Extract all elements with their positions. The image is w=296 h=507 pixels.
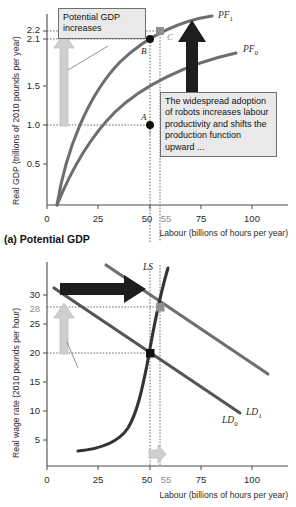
point-b-marker: [146, 35, 154, 43]
panel-b-ytick-20: 20: [29, 347, 40, 358]
panel-a-xtick-0: 0: [44, 213, 49, 224]
arrow-shift-up: [178, 20, 206, 100]
leader-line-real-wage: [67, 342, 78, 368]
panel-a-x-axis-title: Labour (billions of hours per year): [160, 228, 289, 238]
panel-b-xtick-100: 100: [244, 474, 260, 485]
curve-ls: [78, 268, 168, 451]
point-c-marker: [156, 27, 164, 35]
panel-a-x-ticks: [47, 205, 252, 209]
panel-b-ytick-10: 10: [29, 405, 40, 416]
curve-label-ls: LS: [142, 262, 153, 272]
arrow-demand-shift-right: [60, 275, 146, 303]
panel-b-xtick-50: 50: [142, 474, 153, 485]
panel-b-ytick-5: 5: [35, 434, 40, 445]
curve-label-ld1: LD1: [245, 407, 262, 420]
panel-a-caption: (a) Potential GDP: [4, 233, 90, 245]
panel-a-xtick-75: 75: [196, 213, 207, 224]
panel-b-y-axis-title: Real wage rate (2010 pounds per hour): [11, 308, 21, 458]
curve-label-pf1: PF1: [217, 10, 234, 23]
panel-a-xtick-50: 50: [142, 213, 153, 224]
point-c-label: C: [167, 32, 174, 42]
panel-b-x-ticks: [47, 466, 252, 470]
panel-b-ytick-15: 15: [29, 376, 40, 387]
panel-a-y-ticks: [43, 31, 47, 164]
leader-line-potential-gdp: [68, 46, 108, 70]
curve-label-pf0: PF0: [242, 44, 259, 57]
panel-a-ytick-1: 1.0: [27, 119, 40, 130]
panel-b-ytick-25: 25: [29, 318, 40, 329]
point-a-label: A: [140, 112, 147, 122]
arrow-potential-gdp-increase: [54, 33, 74, 126]
panel-b-ytick-30: 30: [29, 289, 40, 300]
arrow-hours-increase: [149, 445, 166, 463]
panel-b-plot: 5 10 15 20 25 28 30 0 25 50 55 75 100 La…: [0, 250, 296, 507]
panel-b-xtick-25: 25: [93, 474, 104, 485]
panel-a-xtick-55: 55: [161, 213, 172, 224]
panel-a-y-axis-title: Real GDP (trillions of 2010 pounds per y…: [11, 36, 21, 205]
panel-a-ytick-0: 0.5: [27, 158, 40, 169]
curve-label-ld0: LD0: [221, 415, 238, 428]
panel-b-xtick-75: 75: [196, 474, 207, 485]
point-b-label: B: [141, 46, 147, 56]
panel-a-ytick-2: 1.5: [27, 80, 40, 91]
arrow-real-wage-rises: [54, 303, 74, 354]
callout-potential-gdp-increases: Potential GDP increases: [58, 8, 146, 39]
callout-robot-adoption: The widespread adoption of robots increa…: [160, 92, 277, 157]
panel-b-y-ticks: [43, 295, 47, 440]
equilibrium-marker-new: [156, 303, 165, 312]
equilibrium-marker-initial: [146, 349, 155, 358]
panel-a-xtick-25: 25: [93, 213, 104, 224]
panel-potential-gdp: 0.5 1.0 1.5 2.1 2.2 0 25 50 55 75 100 La…: [0, 0, 296, 250]
panel-a-xtick-100: 100: [244, 213, 260, 224]
panel-a-ytick-4: 2.2: [27, 24, 40, 35]
panel-b-xtick-55: 55: [161, 474, 172, 485]
panel-b-ytick-28: 28: [29, 303, 40, 314]
point-a-marker: [146, 121, 154, 129]
panel-b-xtick-0: 0: [44, 474, 49, 485]
panel-labour-market: 5 10 15 20 25 28 30 0 25 50 55 75 100 La…: [0, 250, 296, 507]
panel-b-x-axis-title: Labour (billions of hours per year): [160, 490, 289, 500]
